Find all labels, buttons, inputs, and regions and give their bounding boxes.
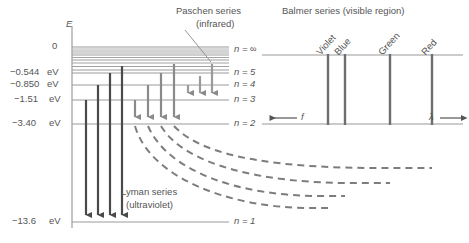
balmer-spectral-lines — [328, 54, 432, 125]
level-label-n3: n = 3 — [234, 93, 255, 104]
energy-value-0: 0 — [52, 40, 57, 51]
wavelength-axis-symbol: λ — [429, 111, 434, 122]
lyman-series-label-line1: Lyman series — [121, 186, 177, 197]
frequency-axis-symbol: f — [301, 111, 304, 122]
hydrogen-energy-level-diagram: E 0 −0.544 eV −0.850 eV −1.51 eV −3.40 e… — [0, 0, 469, 243]
energy-value-n3: −1.51 — [14, 93, 38, 104]
energy-axis-label: E — [66, 18, 72, 29]
energy-value-n2: −3.40 — [12, 117, 36, 128]
energy-value-n5: −0.544 — [10, 66, 39, 77]
energy-unit-n4: eV — [47, 78, 59, 89]
energy-value-n1: −13.6 — [12, 215, 36, 226]
energy-unit-n5: eV — [47, 66, 59, 77]
level-label-n2: n = 2 — [234, 117, 255, 128]
balmer-connector-curves — [135, 126, 432, 208]
balmer-transition-arrows — [135, 64, 174, 117]
energy-unit-n2: eV — [49, 117, 61, 128]
energy-unit-n3: eV — [49, 93, 61, 104]
paschen-transition-arrows — [188, 64, 212, 93]
level-label-n-infinity: n = ∞ — [234, 43, 257, 54]
energy-unit-n1: eV — [49, 215, 61, 226]
paschen-series-label-line1: Paschen series — [176, 5, 241, 16]
energy-value-n4: −0.850 — [10, 78, 39, 89]
lyman-series-label-line2: (ultraviolet) — [126, 199, 173, 210]
balmer-series-title: Balmer series (visible region) — [282, 5, 404, 16]
paschen-series-label-line2: (infrared) — [196, 18, 235, 29]
level-label-n1: n = 1 — [234, 215, 255, 226]
continuum-band — [72, 49, 229, 70]
level-label-n5: n = 5 — [234, 66, 255, 77]
level-label-n4: n = 4 — [234, 78, 255, 89]
lyman-transition-arrows — [86, 66, 122, 215]
